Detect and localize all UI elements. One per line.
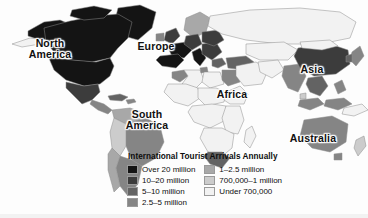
legend-swatch-icon: [204, 187, 215, 196]
map-label-australia: Australia: [278, 133, 348, 144]
legend-label: 1–2.5 million: [219, 165, 264, 174]
legend-item-5-10-million: 5–10 million: [127, 186, 195, 196]
region-antarctic-edge: [0, 214, 368, 218]
region-philippines: [334, 80, 346, 94]
region-united-states: [48, 56, 114, 86]
region-madagascar: [244, 126, 256, 148]
map-label-africa: Africa: [203, 89, 261, 100]
map-label-south-america: South America: [108, 109, 186, 130]
map-label-north-america: North America: [14, 38, 86, 59]
region-russia: [208, 8, 356, 44]
region-west-africa: [164, 84, 200, 106]
legend-label: 5–10 million: [142, 187, 185, 196]
legend-label: 10–20 million: [142, 176, 189, 185]
legend-swatch-icon: [127, 165, 138, 174]
region-southeast-asia: [306, 76, 328, 96]
map-label-asia: Asia: [292, 64, 332, 75]
region-kazakhstan-central-asia: [246, 42, 298, 60]
region-central-africa: [188, 104, 226, 128]
world-tourism-map-figure: North America Europe Asia Africa South A…: [0, 0, 368, 218]
legend-swatch-icon: [204, 176, 215, 185]
region-caribbean: [108, 94, 128, 101]
map-label-europe: Europe: [128, 41, 184, 52]
legend-item-under-700000: Under 700,000: [204, 186, 282, 196]
region-libya: [202, 72, 224, 88]
region-tasmania: [334, 153, 342, 160]
region-spain-portugal: [156, 54, 184, 68]
legend-label: 2.5–5 million: [142, 198, 187, 207]
legend-column-right: 1–2.5 million 700,000–1 million Under 70…: [204, 164, 282, 207]
legend-item-2point5-5-million: 2.5–5 million: [127, 197, 195, 207]
legend-columns: Over 20 million 10–20 million 5–10 milli…: [127, 164, 313, 207]
legend-swatch-icon: [127, 187, 138, 196]
legend-item-700000-1-million: 700,000–1 million: [204, 175, 282, 185]
legend-column-left: Over 20 million 10–20 million 5–10 milli…: [127, 164, 195, 207]
legend-label: Under 700,000: [219, 187, 272, 196]
region-greece: [212, 58, 226, 68]
legend-swatch-icon: [204, 165, 215, 174]
legend-item-over-20-million: Over 20 million: [127, 164, 195, 174]
map-legend: International Tourist Arrivals Annually …: [127, 152, 313, 207]
legend-swatch-icon: [127, 176, 138, 185]
region-new-zealand: [354, 136, 366, 156]
legend-label: Over 20 million: [142, 165, 195, 174]
region-sri-lanka: [300, 93, 306, 99]
legend-swatch-icon: [127, 198, 138, 207]
legend-item-1-2point5-million: 1–2.5 million: [204, 164, 282, 174]
legend-item-10-20-million: 10–20 million: [127, 175, 195, 185]
region-hispaniola: [126, 99, 136, 104]
legend-label: 700,000–1 million: [219, 176, 282, 185]
region-indonesia-west: [298, 98, 324, 110]
legend-title: International Tourist Arrivals Annually: [128, 152, 313, 161]
